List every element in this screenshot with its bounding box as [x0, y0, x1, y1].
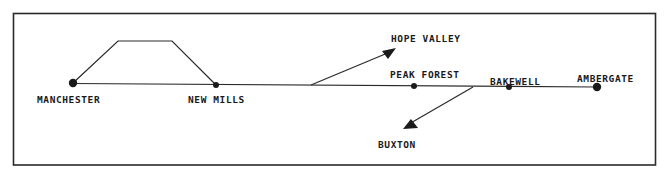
label-ambergate: AMBERGATE — [577, 73, 634, 84]
label-buxton: BUXTON — [378, 139, 416, 150]
diagram-frame — [14, 14, 656, 166]
station-dot-peak-forest — [411, 83, 417, 89]
label-new-mills: NEW MILLS — [188, 94, 245, 105]
arrow-up-right-icon — [382, 48, 396, 59]
branch-buxton — [403, 87, 473, 129]
branch-hope-valley — [311, 48, 396, 85]
station-dot-new-mills — [213, 82, 219, 88]
station-dot-manchester — [69, 79, 77, 87]
loop-line — [73, 41, 216, 85]
station-dot-ambergate — [593, 83, 601, 91]
label-bakewell: BAKEWELL — [490, 76, 541, 87]
label-hope-valley: HOPE VALLEY — [391, 33, 461, 44]
label-peak-forest: PEAK FOREST — [390, 69, 460, 80]
route-diagram: MANCHESTER NEW MILLS PEAK FOREST BAKEWEL… — [0, 0, 665, 173]
label-manchester: MANCHESTER — [37, 94, 100, 105]
